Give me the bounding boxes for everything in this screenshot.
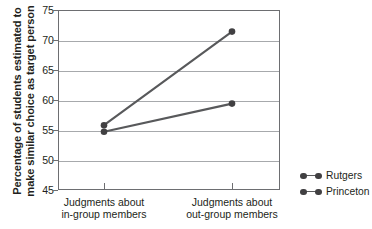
legend-item-rutgers[interactable]: Rutgers xyxy=(300,169,372,183)
x-category-label-in-group: Judgments about in-group members xyxy=(39,196,169,221)
y-tick-label-60: 60 xyxy=(30,95,54,106)
series-rutgers-line xyxy=(104,32,232,126)
series-rutgers-point-out-group xyxy=(229,28,236,35)
x-category-in-group-line-2: in-group members xyxy=(39,208,169,220)
legend-line-marker-icon xyxy=(300,171,322,181)
y-tick-label-45: 45 xyxy=(30,185,54,196)
series-princeton-point-in-group xyxy=(101,129,108,136)
x-tick-mark-out-group xyxy=(232,183,233,190)
series-princeton-line xyxy=(104,104,232,132)
series-layer xyxy=(58,10,280,190)
y-tick-label-75: 75 xyxy=(30,5,54,16)
legend-label-rutgers: Rutgers xyxy=(326,171,362,181)
y-axis-title-line-1: Percentage of students estimated to xyxy=(11,0,24,203)
y-tick-label-65: 65 xyxy=(30,65,54,76)
y-tick-label-70: 70 xyxy=(30,35,54,46)
x-tick-mark-in-group xyxy=(104,183,105,190)
y-tick-label-50: 50 xyxy=(30,155,54,166)
x-category-label-out-group: Judgments about out-group members xyxy=(167,196,297,221)
y-tick-mark-45 xyxy=(52,190,58,191)
legend-label-princeton: Princeton xyxy=(326,187,370,197)
legend-item-princeton[interactable]: Princeton xyxy=(300,185,372,199)
series-princeton xyxy=(101,100,236,135)
x-category-out-group-line-1: Judgments about xyxy=(167,196,297,208)
x-category-in-group-line-1: Judgments about xyxy=(39,196,169,208)
y-tick-label-55: 55 xyxy=(30,125,54,136)
legend-line-marker-icon xyxy=(300,187,322,197)
line-chart: Percentage of students estimated to make… xyxy=(0,0,372,229)
x-category-out-group-line-2: out-group members xyxy=(167,208,297,220)
series-rutgers-point-in-group xyxy=(101,122,108,129)
series-princeton-point-out-group xyxy=(229,100,236,107)
series-rutgers xyxy=(101,28,236,128)
legend: Rutgers Princeton xyxy=(300,169,372,201)
